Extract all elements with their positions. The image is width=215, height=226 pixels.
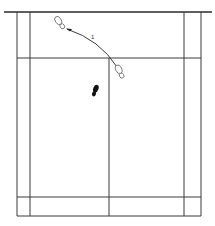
footprint-solid-icon	[91, 84, 100, 97]
arrowhead-icon	[66, 29, 72, 32]
badminton-court-diagram: 1	[0, 0, 215, 226]
footprint-outline-icon	[114, 64, 125, 79]
footprint-outline-icon	[53, 15, 66, 30]
step-number-label: 1	[91, 34, 95, 40]
